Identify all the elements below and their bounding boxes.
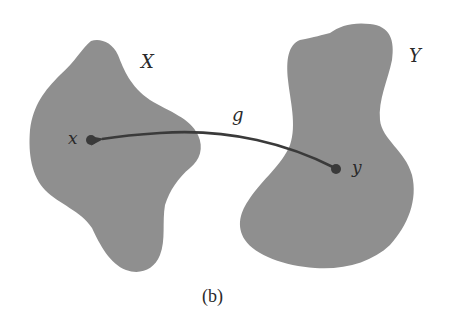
point-y-dot bbox=[331, 164, 341, 174]
set-y-label: Y bbox=[409, 45, 423, 66]
map-g-label: g bbox=[232, 104, 244, 125]
point-x-label: x bbox=[68, 128, 78, 148]
figure-caption: (b) bbox=[202, 286, 223, 307]
point-y-label: y bbox=[351, 157, 362, 177]
diagram-canvas: X Y x y g (b) bbox=[0, 0, 453, 328]
point-x-dot bbox=[86, 135, 96, 145]
set-y-region bbox=[240, 23, 414, 268]
set-x-region bbox=[30, 40, 201, 272]
set-x-label: X bbox=[139, 51, 155, 72]
